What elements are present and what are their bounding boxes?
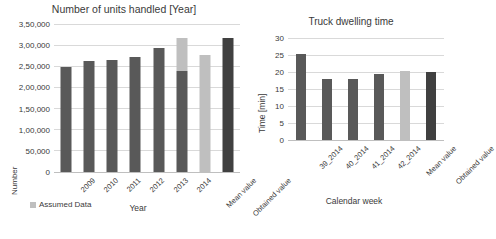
y-axis-tick-label: 1,00,000	[19, 125, 50, 134]
x-axis-tick-label: 42_2014	[396, 144, 423, 171]
y-axis-tick-label: 1,50,000	[19, 104, 50, 113]
legend-swatch-assumed-data-icon	[30, 202, 36, 208]
bar-slot	[124, 24, 147, 172]
y-axis-tick-label: 2,00,000	[19, 83, 50, 92]
bar[interactable]	[200, 55, 211, 172]
y-axis-tick-label: 3,50,000	[19, 20, 50, 29]
x-axis-tick-label: 2012	[148, 176, 166, 194]
x-axis-tick-label: 2011	[125, 176, 143, 194]
y-axis-tick-label: 2,50,000	[19, 62, 50, 71]
bar-slot	[147, 24, 170, 172]
bar-slot	[288, 38, 314, 140]
bar[interactable]	[60, 67, 71, 172]
bar-segment	[296, 54, 306, 140]
x-axis-tick-label: 2014	[195, 176, 213, 194]
bar-segment	[60, 67, 71, 172]
bar-group-truck-dwelling-time	[288, 38, 444, 140]
y-axis-tick-label: 0	[280, 136, 284, 145]
y-axis-tick-label: 3,00,000	[19, 41, 50, 50]
bar[interactable]	[223, 38, 234, 172]
x-axis-tick-label: 2013	[172, 176, 190, 194]
bar[interactable]	[130, 57, 141, 172]
x-axis-label-units-handled: Year	[118, 203, 158, 213]
legend-units-handled: Assumed Data	[30, 200, 91, 209]
bar-segment	[348, 79, 358, 140]
y-axis-tick-label: 15	[275, 85, 284, 94]
legend-label-assumed-data: Assumed Data	[39, 200, 91, 209]
bar-segment	[426, 72, 436, 140]
chart-panel-truck-dwelling-time: Truck dwelling time Time [min] 051015202…	[248, 8, 454, 239]
y-axis-tick-label: 30	[275, 34, 284, 43]
x-axis-label-truck-dwelling-time: Calendar week	[316, 196, 392, 206]
bar-slot	[101, 24, 124, 172]
bar[interactable]	[426, 72, 436, 140]
bar[interactable]	[107, 60, 118, 172]
bar-segment	[223, 38, 234, 172]
bar-segment	[374, 74, 384, 140]
x-axis-tick-label: Mean value	[424, 144, 458, 178]
plot-area-truck-dwelling-time	[288, 38, 444, 140]
x-axis-tick-label: 40_2014	[344, 144, 371, 171]
bar-segment	[322, 79, 332, 140]
bar-slot	[217, 24, 240, 172]
bar-segment	[176, 71, 187, 172]
x-axis-ticks-truck-dwelling-time: 39_201440_201441_201442_2014Mean valueOb…	[288, 142, 444, 198]
x-axis-tick-label: 41_2014	[370, 144, 397, 171]
x-axis-tick-label: 2009	[79, 176, 97, 194]
bar-slot	[392, 38, 418, 140]
bar-slot	[170, 24, 193, 172]
bar[interactable]	[176, 38, 187, 172]
y-axis-ticks-truck-dwelling-time: 051015202530	[262, 38, 284, 140]
bar[interactable]	[348, 79, 358, 140]
bar[interactable]	[153, 48, 164, 172]
y-axis-ticks-units-handled: 050,0001,00,0001,50,0002,00,0002,50,0003…	[6, 24, 50, 172]
x-axis-tick-label: 39_2014	[318, 144, 345, 171]
bar-group-units-handled	[54, 24, 240, 172]
bar-slot	[340, 38, 366, 140]
bar-segment	[176, 38, 187, 71]
bar-slot	[77, 24, 100, 172]
y-axis-tick-label: 10	[275, 102, 284, 111]
y-axis-tick-label: 25	[275, 51, 284, 60]
bar[interactable]	[83, 61, 94, 172]
bar-segment	[153, 48, 164, 172]
x-axis-tick-label: Obtained value	[454, 144, 496, 186]
bar-segment	[107, 60, 118, 172]
bar-segment	[83, 61, 94, 172]
bar-slot	[54, 24, 77, 172]
bar-slot	[194, 24, 217, 172]
bar[interactable]	[374, 74, 384, 140]
bar[interactable]	[400, 71, 410, 140]
y-axis-tick-label: 20	[275, 68, 284, 77]
y-axis-tick-label: 0	[46, 168, 50, 177]
bar-slot	[366, 38, 392, 140]
bar[interactable]	[296, 54, 306, 140]
y-axis-tick-label: 50,000	[26, 146, 50, 155]
chart-title-truck-dwelling-time: Truck dwelling time	[248, 16, 454, 27]
bar-segment	[200, 55, 211, 172]
bar[interactable]	[322, 79, 332, 140]
x-axis-tick-label: 2010	[102, 176, 120, 194]
plot-area-units-handled	[54, 24, 240, 172]
bar-segment	[130, 57, 141, 172]
chart-title-units-handled: Number of units handled [Year]	[0, 3, 248, 15]
bar-slot	[418, 38, 444, 140]
bar-segment	[400, 71, 410, 140]
y-axis-tick-label: 5	[280, 119, 284, 128]
chart-panel-units-handled: Number of units handled [Year] Number 05…	[0, 0, 248, 239]
bar-slot	[314, 38, 340, 140]
